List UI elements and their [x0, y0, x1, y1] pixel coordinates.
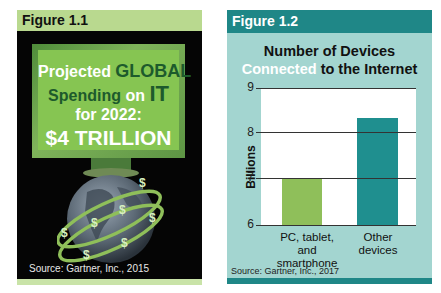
x-category-2: Other devices [349, 231, 407, 257]
svg-text:$: $ [83, 248, 90, 262]
svg-text:$: $ [91, 216, 98, 230]
figure-header: Figure 1.1 [17, 10, 202, 31]
figure-footer-bar [17, 279, 202, 285]
svg-text:$: $ [139, 176, 146, 190]
figure-label: Figure 1.1 [22, 12, 88, 28]
screen-line-1: Projected GLOBAL [38, 62, 179, 80]
svg-text:$: $ [119, 203, 126, 217]
bar-pc-tablet-smartphone [282, 178, 322, 225]
chart-title-line-1: Number of Devices [227, 43, 432, 59]
figure-1-2: Figure 1.2 Number of Devices Connected t… [227, 10, 432, 284]
y-tick-7: 7 [240, 170, 254, 184]
figure-1-1: Figure 1.1 Projected GLOBAL Spending on … [17, 10, 202, 285]
gridline-6 [256, 225, 416, 226]
gridline-8 [256, 132, 416, 133]
y-tick-9: 9 [240, 80, 254, 94]
y-axis-label: Billions [244, 137, 258, 197]
screen-line-2: Spending on IT [38, 83, 179, 105]
figure-source: Source: Gartner, Inc., 2015 [29, 263, 149, 274]
figure-label: Figure 1.2 [232, 13, 298, 29]
svg-text:$: $ [121, 236, 128, 250]
screen-line-4: $4 TRILLION [38, 127, 179, 148]
figure-source: Source: Gartner, Inc., 2017 [231, 266, 339, 276]
chart-title-line-2: Connected to the Internet [227, 61, 432, 77]
y-tick-8: 8 [240, 125, 254, 139]
gridline-9 [256, 88, 416, 89]
figure-illustration: Projected GLOBAL Spending on IT for 2022… [17, 31, 202, 279]
bar-other-devices [357, 118, 398, 225]
x-category-1: PC, tablet, and smartphone [267, 231, 347, 270]
globe-dollar-icon: $ $ $ $ $ $ $ [57, 167, 165, 265]
monitor-screen: Projected GLOBAL Spending on IT for 2022… [38, 50, 179, 150]
figure-footer-bar [227, 278, 432, 284]
svg-text:$: $ [149, 211, 156, 225]
gridline-7 [256, 178, 416, 179]
y-tick-6: 6 [240, 217, 254, 231]
screen-line-3: for 2022: [38, 107, 179, 123]
monitor-icon: Projected GLOBAL Spending on IT for 2022… [32, 44, 185, 158]
figure-header: Figure 1.2 [227, 10, 432, 33]
svg-text:$: $ [61, 226, 68, 240]
chart-title-highlight: Connected [242, 61, 317, 77]
